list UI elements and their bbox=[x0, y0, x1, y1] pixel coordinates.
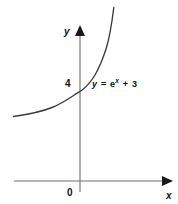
x-axis-arrowhead-icon bbox=[162, 176, 173, 186]
curve-equation-label: y = ex + 3 bbox=[92, 80, 137, 89]
equation-equals: = bbox=[100, 79, 107, 89]
x-axis-label: x bbox=[166, 191, 172, 201]
equation-plus: + bbox=[122, 79, 129, 89]
exponential-graph-figure: y x 4 0 y = ex + 3 bbox=[0, 0, 178, 204]
origin-label: 0 bbox=[67, 188, 73, 198]
equation-constant: 3 bbox=[132, 79, 137, 89]
exponential-curve bbox=[14, 8, 114, 117]
equation-exponent: x bbox=[115, 77, 119, 84]
y-axis-arrowhead-icon bbox=[75, 25, 85, 36]
y-axis-label: y bbox=[64, 27, 70, 37]
equation-lhs: y bbox=[92, 79, 97, 89]
graph-canvas bbox=[0, 0, 178, 204]
y-intercept-tick-label: 4 bbox=[65, 79, 71, 89]
